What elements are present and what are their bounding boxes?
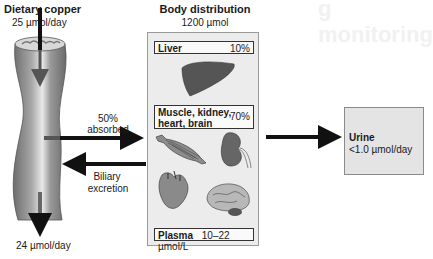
biliary-label: Biliary [82,171,132,182]
liver-label-box: Liver 10% [154,41,254,54]
muscle-kidney-heart-brain-label-box: Muscle, kidney, heart, brain 70% [154,105,254,129]
absorbed-label: absorbed [76,124,140,135]
plasma-label: Plasma [158,230,193,241]
liver-percent: 10% [230,43,250,54]
heart-icon [154,169,194,213]
brain-icon [203,181,253,217]
urine-box: Urine <1.0 µmol/day [344,107,424,175]
liver-icon [178,60,238,100]
fecal-output-amount: 24 µmol/day [16,240,71,251]
body-distribution-box: Liver 10% Muscle, kidney, heart, brain 7… [147,32,259,246]
body-distribution-total: 1200 µmol [140,17,270,28]
liver-label: Liver [158,43,182,54]
excretion-label: excretion [76,183,140,194]
organs-percent: 70% [230,111,250,122]
plasma-label-box: Plasma 10–22 µmol/L [154,228,254,241]
muscle-icon [154,133,210,165]
absorbed-percent: 50% [88,113,128,124]
body-distribution-title: Body distribution [140,4,270,15]
urine-title: Urine [349,132,375,143]
kidney-icon [220,131,254,169]
urine-amount: <1.0 µmol/day [349,144,412,155]
